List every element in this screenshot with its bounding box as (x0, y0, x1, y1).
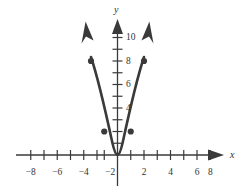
data-point (101, 128, 107, 134)
y-tick-label-6: 6 (126, 80, 131, 90)
x-tick-label-4: 4 (168, 168, 173, 178)
x-tick-label-8: 8 (208, 168, 213, 178)
graph-figure: −8 −6 −4 −2 2 4 6 8 4 6 8 10 x y (0, 0, 246, 195)
y-tick-label-4: 4 (126, 104, 131, 114)
x-tick-label-2: 2 (142, 168, 147, 178)
x-axis-label: x (230, 150, 234, 160)
parabola-left-arrowhead-icon (82, 22, 94, 44)
y-axis-label: y (114, 5, 118, 15)
y-tick-label-8: 8 (126, 57, 131, 67)
data-point (88, 58, 94, 64)
data-point (128, 128, 134, 134)
x-tick-label--4: −4 (79, 168, 89, 178)
x-tick-label--2: −2 (105, 168, 115, 178)
x-tick-label--6: −6 (52, 168, 62, 178)
x-tick-label--8: −8 (26, 168, 36, 178)
y-tick-label-10: 10 (126, 33, 136, 43)
data-point (141, 58, 147, 64)
parabola-right-arrowhead-icon (141, 22, 153, 44)
x-tick-label-6: 6 (195, 168, 200, 178)
y-axis-arrowhead-icon (112, 19, 123, 34)
coordinate-plane-svg (0, 0, 246, 195)
